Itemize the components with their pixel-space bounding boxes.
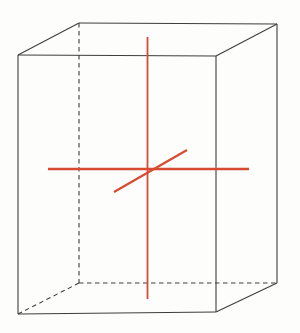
box-edge-top_back_left--top_front_left (18, 23, 79, 55)
box-edge-bottom_front_right--bottom_back_right (216, 283, 277, 312)
box-edge-top_front_left--top_front_right (18, 55, 216, 56)
box-edge-top_front_right--top_back_right (216, 24, 277, 56)
box-edge-bottom_front_left--bottom_front_right (18, 312, 216, 314)
box-edge-top_back_right--top_back_left (79, 23, 277, 24)
cuboid-wireframe-diagram (0, 0, 300, 333)
box-hidden-edge-bottom_back_left--bottom_front_left (18, 283, 79, 314)
diagram-stage (0, 0, 300, 333)
axis-lines-group (48, 37, 249, 299)
depth-axis-line (114, 150, 187, 192)
